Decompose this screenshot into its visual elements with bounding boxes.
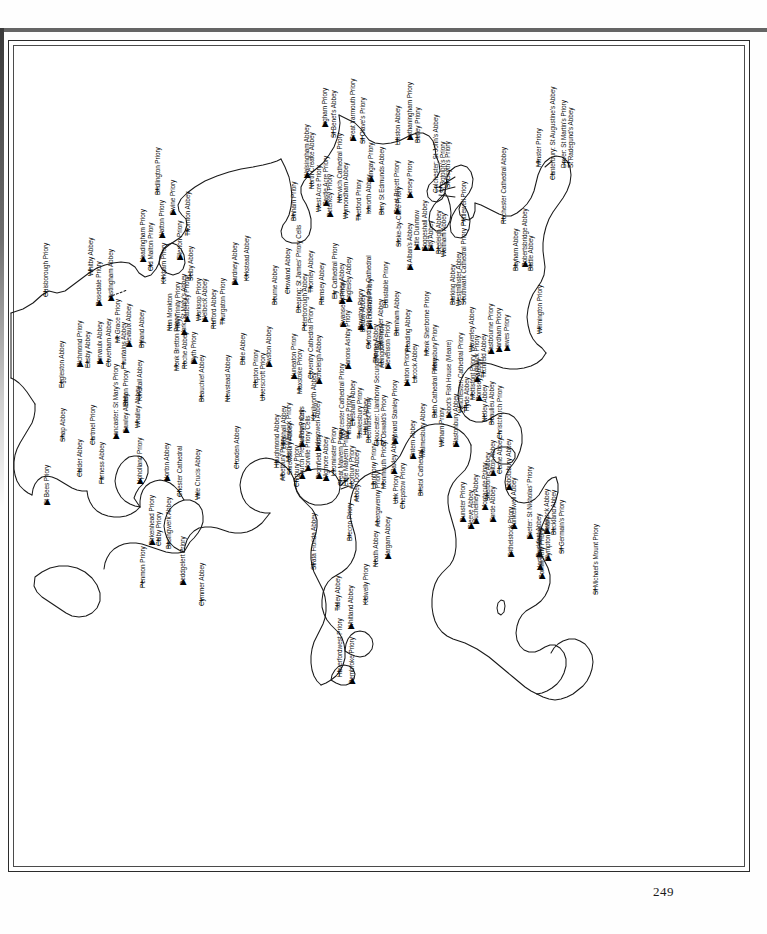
site-label: Margam Abbey	[384, 517, 391, 559]
site-label: Chester Cathedral	[176, 446, 183, 497]
site-label: Canterbury: St Augustine's Abbey	[549, 87, 556, 180]
site-label: Robertsbridge Abbey	[521, 208, 528, 267]
site-label: Talley Abbey	[334, 576, 341, 611]
site-label: Dale Abbey	[239, 333, 246, 365]
site-label: Wilmington Priory	[536, 285, 543, 334]
site-label: Netley Abbey	[481, 385, 488, 422]
site-label: Dover: St Martin's Priory St Radegund's …	[561, 100, 575, 168]
site-label: Westminster Abbey	[455, 252, 462, 306]
site-label: Reading Abbey	[404, 309, 411, 352]
site-label: Thornton Abbey	[184, 192, 191, 236]
site-label: Wigmore Abbey	[322, 437, 329, 481]
site-label: Sawley Abbey	[122, 393, 129, 433]
site-label: Hinton Priory	[403, 350, 410, 386]
site-label: Cartmel Priory	[89, 405, 96, 445]
site-label: Repton Priory	[252, 350, 259, 388]
site-label: Waltham Abbey	[440, 213, 447, 257]
site-label: Kirkham Priory	[160, 243, 167, 284]
site-label: Abergavenny Priory	[374, 472, 381, 527]
site-label: Bath Cathedral Priory	[431, 358, 438, 418]
site-label: Ely Cathedral Priory	[331, 243, 338, 299]
site-label: Bayham Abbey	[512, 229, 519, 271]
site-label: Calby Priory	[155, 512, 162, 546]
site-label: Pembroke Priory	[348, 637, 355, 684]
site-label: Prittlewell Priory	[460, 181, 467, 226]
site-label: Ramsey Abbey	[318, 263, 325, 305]
site-label: Binham Priory	[290, 182, 297, 221]
site-label: Ixworth Abbey	[365, 175, 372, 215]
site-label: Yeadingham Priory	[139, 209, 146, 262]
site-label: Rochester Cathedral Abbey	[500, 147, 507, 224]
site-label: Thorney Abbey	[307, 251, 314, 293]
site-label: Lancaster: St Mary's Priory	[112, 364, 119, 439]
site-label: Halesowen Abbey	[314, 401, 321, 451]
site-label: Beddgelert Priory	[179, 536, 186, 585]
site-label: Cymmer Abbey	[198, 563, 205, 606]
site-label: Lacock Abbey	[411, 344, 418, 383]
site-label: Great Yarmouth Priory	[349, 79, 356, 141]
site-label: Newstead Abbey	[224, 355, 231, 402]
site-label: Oxford: St Frideswide's Cathedral	[365, 255, 372, 349]
site-label: Lethaningham Priory	[406, 82, 413, 140]
site-label: Bristol Cathedral	[417, 450, 424, 496]
site-label: Upholland Priory	[136, 438, 143, 484]
site-label: St Germain's Priory	[558, 500, 565, 554]
site-label: Byland Abbey	[138, 310, 145, 348]
site-label: Strata Florida Abbey	[310, 513, 317, 570]
site-label: Owston Abbey	[265, 326, 272, 367]
map-frame: †Guisborough Priory†Whitby Abbey▲Rosedal…	[8, 40, 750, 872]
site-label: Beaulieu Abbey	[488, 381, 495, 425]
site-label: Whitby Abbey	[87, 238, 94, 276]
site-label: Usk Priory	[392, 475, 399, 504]
site-label: Thetford Priory	[355, 179, 362, 221]
site-label: Bourne Abbey	[271, 265, 278, 305]
site-label: Welbeck Abbey	[201, 279, 208, 322]
site-label: Beauchief Abbey	[198, 355, 205, 402]
site-label: Buckland Abbey	[550, 490, 557, 535]
site-label: Whalley Abbey	[134, 386, 141, 428]
site-label: North Creake Abbey	[308, 132, 315, 189]
site-label: Brecon Priory	[346, 503, 353, 541]
site-label: Blyth Priory	[190, 332, 197, 364]
site-label: Evesham Abbey	[349, 380, 356, 426]
site-label: Basingwerk Abbey	[165, 497, 172, 549]
site-label: Coventry Cathedral Priory	[307, 307, 314, 379]
site-label: Leiston Abbey	[394, 105, 401, 145]
site-label: St Osyth's Priory	[444, 141, 451, 188]
site-label: Lewes Priory	[503, 315, 510, 351]
site-label: Eastbourne Priory	[487, 304, 494, 354]
site-label: Nun Monkton	[166, 294, 173, 331]
site-label: Minster Priory	[535, 128, 542, 167]
site-label: Kersey Priory	[406, 160, 413, 198]
site-label: Dudley Priory	[298, 409, 305, 447]
site-label: Penmon Priory	[139, 546, 146, 588]
site-label: Haughmond Abbey	[273, 414, 280, 468]
site-label: Exeter: St Nicholas' Priory	[526, 466, 533, 539]
site-label: Dunster Priory	[459, 482, 466, 522]
site-label: Deerhurst Priory	[365, 397, 372, 443]
site-label: Guisborough Priory	[42, 243, 49, 297]
site-label: Tilty Abbey	[427, 221, 434, 251]
site-label: Birkenhead Priory	[148, 495, 155, 545]
site-label: Watton Priory	[158, 200, 165, 238]
site-label: Nuneaton Priory	[290, 334, 297, 379]
folio-number: 249	[653, 884, 674, 899]
site-label: Barking Abbey	[449, 264, 456, 305]
site-label: Wymondham Abbey	[342, 163, 349, 219]
site-label: St Olave's Priory	[359, 97, 366, 144]
site-label: Swine Priory	[169, 180, 176, 215]
site-label: Coverham Abbey	[105, 319, 112, 367]
site-label: Titchfield Abbey	[480, 334, 487, 378]
site-label: Lastingham Abbey	[107, 249, 114, 301]
site-label: Muchelney Abbey	[472, 474, 479, 524]
site-label: Forde Abbey	[489, 486, 496, 522]
site-label: Peterkey Priory	[326, 174, 333, 217]
site-label: Hardham Priory	[495, 308, 502, 352]
scan-edge-shadow-top	[0, 28, 767, 32]
site-label: Jervaulx Abbey	[96, 321, 103, 364]
site-label: Leominster Priory	[330, 427, 337, 476]
site-label: St Bees Priory	[43, 465, 50, 505]
site-label: Furness Abbey	[98, 442, 105, 484]
site-label: Shap Abbey	[59, 408, 66, 442]
site-label: West Acre Priory	[315, 165, 322, 212]
